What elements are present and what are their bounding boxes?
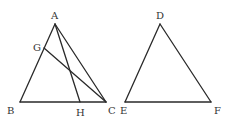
label-e: E [120,105,127,116]
label-h: H [76,107,85,118]
triangle-abc [20,24,106,102]
label-f: F [214,105,221,116]
label-d: D [156,10,164,21]
geometry-diagram: A G B H C D E F [0,0,234,126]
segment-de [125,24,160,102]
triangle-def [125,24,211,102]
segment-gc [44,48,106,102]
label-b: B [7,105,14,116]
segment-ah [55,24,80,102]
segment-df [160,24,211,102]
label-c: C [108,105,116,116]
segment-ac [55,24,106,102]
segment-ab [20,24,55,102]
label-a: A [50,10,59,21]
label-g: G [33,42,41,53]
